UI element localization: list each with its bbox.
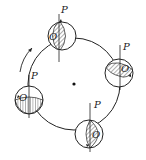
force-label: P <box>60 4 68 15</box>
point-label: O <box>19 92 27 103</box>
disk-bottom: P O <box>75 99 103 152</box>
disk-right: P O <box>105 41 133 90</box>
point-label: O <box>49 31 57 42</box>
force-label: P <box>30 70 38 81</box>
disk-top: P O <box>48 4 76 62</box>
disk-left: P O <box>15 70 43 118</box>
point-label: O <box>92 129 100 140</box>
force-label: P <box>93 99 101 110</box>
center-point <box>72 82 75 85</box>
point-label: O <box>121 63 129 74</box>
diagram: P O P O P O P O <box>0 0 146 160</box>
force-label: P <box>122 41 130 52</box>
